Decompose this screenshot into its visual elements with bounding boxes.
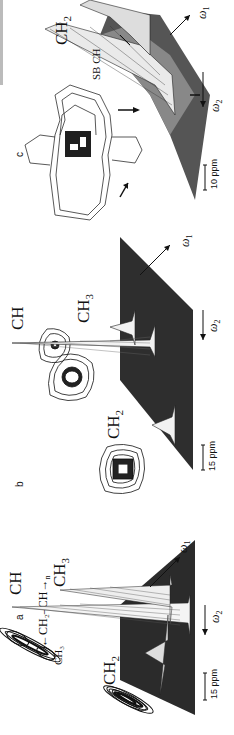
peak-label-ch2: CH2 <box>52 16 73 45</box>
axis-label-omega2: ω2 <box>208 100 224 112</box>
figure-canvas: a ←CH₂–CH→n CH₃ <box>0 0 234 735</box>
panel-c-stack-plot <box>0 0 234 735</box>
peak-label-sb-ch: SB CH <box>90 49 102 81</box>
scale-bar-label: 10 ppm <box>209 159 219 189</box>
axis-label-omega1: ω1 <box>195 7 211 19</box>
